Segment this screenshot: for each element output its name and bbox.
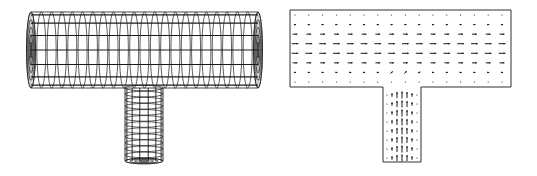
arrow-head bbox=[434, 62, 436, 64]
arrow-head bbox=[351, 62, 353, 64]
arrow-head bbox=[407, 43, 409, 45]
arrow-head bbox=[391, 156, 393, 158]
arrow-head bbox=[396, 119, 398, 121]
arrow-head bbox=[421, 43, 423, 45]
arrow-head bbox=[490, 52, 492, 54]
velocity-dot bbox=[386, 157, 387, 158]
arrow-head bbox=[294, 72, 296, 74]
arrow-head bbox=[401, 128, 403, 130]
arrow-head bbox=[460, 72, 462, 74]
arrow-head bbox=[406, 119, 408, 121]
arrow-head bbox=[447, 33, 449, 35]
velocity-dot bbox=[336, 81, 337, 82]
arrow-head bbox=[336, 24, 338, 26]
arrow-head bbox=[489, 33, 491, 35]
velocity-dot bbox=[446, 81, 447, 82]
arrow-head bbox=[349, 72, 351, 74]
arrow-head bbox=[378, 62, 380, 64]
arrow-head bbox=[297, 43, 299, 45]
arrow-head bbox=[474, 24, 476, 26]
velocity-dot bbox=[336, 14, 337, 15]
velocity-dot bbox=[416, 130, 417, 131]
branch-ring bbox=[125, 134, 163, 140]
arrow-head bbox=[308, 24, 310, 26]
arrow-head bbox=[324, 52, 326, 54]
arrow-head bbox=[396, 101, 398, 103]
arrow-head bbox=[393, 52, 395, 54]
velocity-dot bbox=[419, 14, 420, 15]
velocity-dot bbox=[474, 81, 475, 82]
arrow-head bbox=[351, 33, 353, 35]
arrow-head bbox=[406, 101, 408, 103]
velocity-arrows bbox=[292, 14, 506, 161]
branch-ring bbox=[125, 110, 163, 116]
arrow-head bbox=[396, 110, 398, 112]
arrow-head bbox=[462, 52, 464, 54]
arrow-head bbox=[309, 33, 311, 35]
arrow-head bbox=[401, 119, 403, 121]
arrow-head bbox=[406, 155, 408, 157]
arrow-head bbox=[446, 24, 448, 26]
arrow-head bbox=[391, 129, 393, 131]
velocity-dot bbox=[416, 94, 417, 95]
arrow-head bbox=[322, 72, 324, 74]
velocity-dot bbox=[363, 81, 364, 82]
velocity-dot bbox=[377, 81, 378, 82]
arrow-head bbox=[391, 24, 393, 26]
arrow-head bbox=[391, 102, 393, 104]
velocity-dot bbox=[386, 94, 387, 95]
arrow-head bbox=[323, 62, 325, 64]
arrow-head bbox=[411, 120, 413, 122]
velocity-dot bbox=[294, 81, 295, 82]
velocity-dot bbox=[308, 81, 309, 82]
arrow-head bbox=[396, 155, 398, 157]
figure bbox=[0, 0, 537, 176]
arrow-head bbox=[411, 93, 413, 95]
arrow-head bbox=[420, 62, 422, 64]
arrow-head bbox=[392, 33, 394, 35]
arrow-head bbox=[396, 146, 398, 148]
arrow-head bbox=[501, 24, 503, 26]
arrow-head bbox=[401, 146, 403, 148]
arrow-head bbox=[365, 62, 367, 64]
arrow-head bbox=[401, 137, 403, 139]
arrow-head bbox=[461, 33, 463, 35]
branch-ring bbox=[125, 116, 163, 122]
arrow-head bbox=[418, 24, 420, 26]
arrow-head bbox=[406, 128, 408, 130]
arrow-head bbox=[401, 155, 403, 157]
arrow-head bbox=[377, 24, 379, 26]
arrow-head bbox=[401, 110, 403, 112]
arrow-head bbox=[391, 138, 393, 140]
velocity-dot bbox=[416, 139, 417, 140]
arrow-head bbox=[309, 62, 311, 64]
arrow-head bbox=[434, 33, 436, 35]
arrow-head bbox=[411, 138, 413, 140]
arrow-head bbox=[378, 33, 380, 35]
arrow-head bbox=[310, 43, 312, 45]
velocity-dot bbox=[474, 14, 475, 15]
arrow-head bbox=[338, 43, 340, 45]
arrow-head bbox=[366, 52, 368, 54]
figure-canvas bbox=[0, 0, 537, 176]
arrow-head bbox=[405, 24, 407, 26]
velocity-dot bbox=[386, 148, 387, 149]
arrow-head bbox=[310, 52, 312, 54]
velocity-dot bbox=[386, 130, 387, 131]
arrow-head bbox=[448, 43, 450, 45]
main-pipe-wireframe bbox=[27, 12, 263, 88]
arrow-head bbox=[366, 43, 368, 45]
arrow-head bbox=[487, 24, 489, 26]
arrow-head bbox=[490, 43, 492, 45]
arrow-head bbox=[392, 62, 394, 64]
arrow-head bbox=[336, 72, 338, 74]
arrow-head bbox=[406, 110, 408, 112]
arrow-head bbox=[489, 62, 491, 64]
arrow-head bbox=[296, 33, 298, 35]
arrow-head bbox=[446, 72, 448, 74]
arrow-head bbox=[401, 101, 403, 103]
arrow-head bbox=[504, 43, 506, 45]
velocity-dot bbox=[322, 81, 323, 82]
velocity-dot bbox=[416, 103, 417, 104]
branch-ring bbox=[125, 97, 163, 103]
